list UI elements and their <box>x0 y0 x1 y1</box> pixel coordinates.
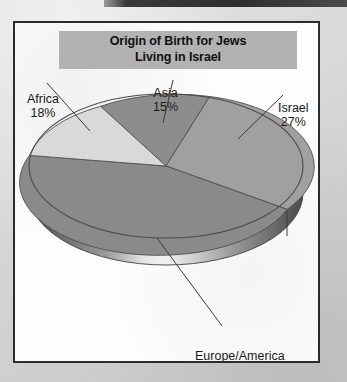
chart-frame: Origin of Birth for Jews Living in Israe… <box>13 21 320 363</box>
callout-leader-lines <box>15 23 318 361</box>
leader-line-asia <box>163 80 173 123</box>
leader-line-europe-america <box>157 238 222 326</box>
screenshot-root: Origin of Birth for Jews Living in Israe… <box>0 0 347 382</box>
leader-line-africa <box>47 83 90 131</box>
leader-line-israel <box>238 95 283 139</box>
chart-panel: Origin of Birth for Jews Living in Israe… <box>15 23 318 361</box>
top-scan-bar <box>104 0 347 7</box>
